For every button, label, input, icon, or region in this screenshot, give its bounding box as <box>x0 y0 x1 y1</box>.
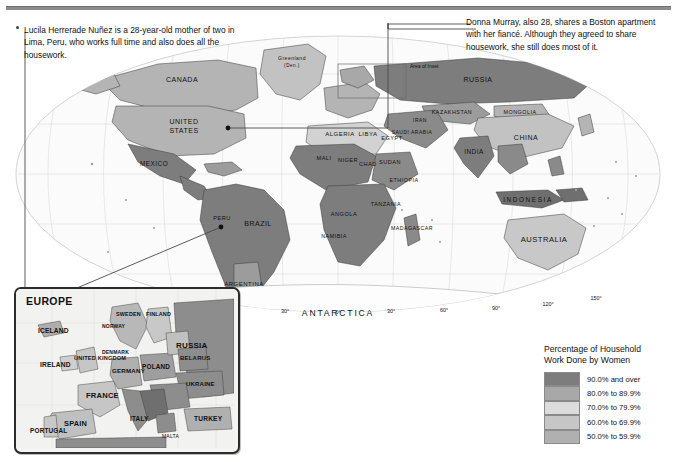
legend-title-line2: Work Done by Women <box>544 355 668 366</box>
legend-label: 90.0% and over <box>587 375 640 384</box>
legend-label: 80.0% to 89.9% <box>587 389 641 398</box>
inset-label-united-kingdom: UNITED KINGDOM <box>74 355 126 361</box>
inset-label-ukraine: UKRAINE <box>186 381 215 387</box>
label-chad: CHAD <box>359 161 377 167</box>
label-tanzania: TANZANIA <box>371 201 401 207</box>
callout-donna-text: Donna Murray, also 28, shares a Boston a… <box>466 16 672 53</box>
label-australia: AUSTRALIA <box>521 235 568 244</box>
inset-north-africa <box>56 437 166 448</box>
svg-text:120°: 120° <box>542 301 553 307</box>
legend-label: 70.0% to 79.9% <box>587 403 641 412</box>
label-greenland-den: (Den.) <box>284 63 300 68</box>
label-kazakhstan: KAZAKHSTAN <box>432 109 473 115</box>
svg-text:90°: 90° <box>492 305 500 311</box>
inset-greece <box>156 413 176 433</box>
label-mexico: MEXICO <box>140 160 168 167</box>
legend-swatch <box>544 386 580 400</box>
label-algeria: ALGERIA <box>325 131 355 137</box>
inset-label-poland: POLAND <box>142 363 170 370</box>
label-madagascar: MADAGASCAR <box>391 225 433 231</box>
legend-row[interactable]: 90.0% and over <box>544 372 670 386</box>
label-ethiopia: ETHIOPIA <box>389 177 418 183</box>
inset-label-malta: MALTA <box>162 433 179 439</box>
svg-text:30°: 30° <box>387 308 395 314</box>
legend-title-line1: Percentage of Household <box>544 344 668 355</box>
callout-bullet-icon <box>16 26 19 29</box>
label-mongolia: MONGOLIA <box>503 109 536 115</box>
label-libya: LIBYA <box>358 131 377 137</box>
label-united-states-2: STATES <box>169 127 198 134</box>
label-brazil: BRAZIL <box>244 220 272 227</box>
svg-text:60°: 60° <box>440 307 448 313</box>
inset-label-ireland: IRELAND <box>40 361 71 368</box>
legend-row[interactable]: 70.0% to 79.9% <box>544 401 670 415</box>
legend-swatch <box>544 372 580 386</box>
legend-row[interactable]: 80.0% to 89.9% <box>544 386 670 400</box>
legend-swatch-list: 90.0% and over 80.0% to 89.9% 70.0% to 7… <box>544 372 670 444</box>
svg-text:30°: 30° <box>281 308 289 314</box>
country-new-zealand <box>602 258 618 280</box>
label-egypt: EGYPT <box>381 135 403 141</box>
label-namibia: NAMIBIA <box>321 233 347 239</box>
label-canada: CANADA <box>166 76 198 83</box>
europe-inset-map[interactable]: EUROPE RUSSIA FRANCE SPAIN PORTUGAL ICEL… <box>14 287 240 454</box>
inset-label-finland: FINLAND <box>146 311 171 317</box>
label-niger: NIGER <box>338 157 358 163</box>
inset-label-portugal: PORTUGAL <box>30 427 67 434</box>
map-legend: Percentage of Household Work Done by Wom… <box>544 344 670 444</box>
inset-label-sweden: SWEDEN <box>116 311 141 317</box>
svg-text:0°: 0° <box>335 309 340 315</box>
label-sudan: SUDAN <box>379 159 401 165</box>
legend-row[interactable]: 60.0% to 69.9% <box>544 415 670 429</box>
header-rule <box>6 6 671 10</box>
label-united-states-1: UNITED <box>169 118 198 125</box>
label-iran: IRAN <box>413 117 427 123</box>
label-china: CHINA <box>514 134 538 141</box>
callout-lucila-text: Lucila Herrerade Nuñez is a 28-year-old … <box>24 24 256 61</box>
legend-row[interactable]: 50.0% to 59.9% <box>544 430 670 444</box>
inset-label-norway: NORWAY <box>102 323 125 329</box>
inset-label-iceland: ICELAND <box>38 327 69 334</box>
label-peru: PERU <box>213 215 231 221</box>
svg-text:150°: 150° <box>590 295 601 301</box>
inset-label-italy: ITALY <box>130 415 148 422</box>
legend-label: 50.0% to 59.9% <box>587 432 641 441</box>
inset-label-france: FRANCE <box>86 391 119 400</box>
callout-lucila: Lucila Herrerade Nuñez is a 28-year-old … <box>24 24 256 61</box>
legend-swatch <box>544 415 580 429</box>
label-angola: ANGOLA <box>331 211 357 217</box>
label-russia: RUSSIA <box>463 76 492 83</box>
callout-donna: Donna Murray, also 28, shares a Boston a… <box>466 16 672 53</box>
inset-title: EUROPE <box>26 295 73 307</box>
inset-label-germany: GERMANY <box>112 367 145 374</box>
legend-title: Percentage of Household Work Done by Wom… <box>544 344 668 366</box>
label-india: INDIA <box>464 148 484 155</box>
inset-label-belarus: BELARUS <box>180 355 210 361</box>
inset-label-russia: RUSSIA <box>176 341 207 350</box>
label-area-of-inset: Area of Inset <box>410 63 439 69</box>
label-greenland: Greenland <box>278 55 306 61</box>
legend-swatch <box>544 401 580 415</box>
label-indonesia: INDONESIA <box>503 196 553 203</box>
legend-label: 60.0% to 69.9% <box>587 418 641 427</box>
legend-swatch <box>544 430 580 444</box>
inset-label-denmark: DENMARK <box>102 349 129 355</box>
label-mali: MALI <box>316 155 331 161</box>
inset-label-turkey: TURKEY <box>194 415 222 422</box>
label-saudi-arabia: SAUDI ARABIA <box>392 129 433 135</box>
